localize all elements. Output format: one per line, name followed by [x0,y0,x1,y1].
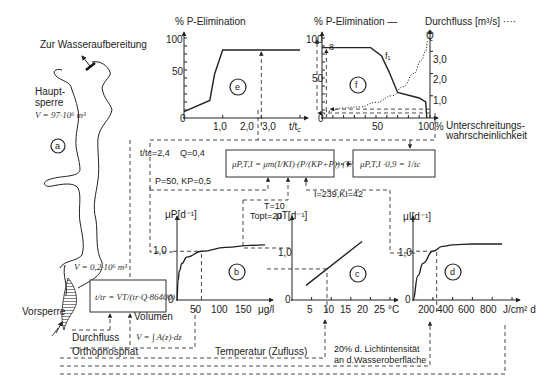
chart-e: % P-Elimination 100 50 0 1,0 2,0 3,0 t/t… [166,16,308,133]
chart-b: μP[d⁻¹] 1,0 0 50 100 150 μg/l b [153,209,274,315]
param-i: I=239,KI=42 [314,189,363,199]
result-formula: μP,T,I ·0,9 = 1/tc [359,159,421,169]
chart-d-ytick-1: 1,0 [398,247,412,258]
chart-b-ytick-1: 1,0 [153,245,167,256]
marker-f-circle [350,77,366,93]
chart-b-ytick-0: 0 [168,294,174,305]
input-orthophosphate: Orthophosphat [72,346,138,357]
chart-c-ytick-0: 0 [285,294,291,305]
marker-b: b [234,267,239,277]
chart-c-xtick-20: 20 [357,304,369,315]
input-volume: Volumen [134,311,173,322]
chart-f-xlabel-2: wahrscheinlichkeit [445,130,527,141]
chart-c: μT[d⁻¹] 1,0 0 5 10 15 20 25 °C c [267,210,399,315]
chart-b-xunit: μg/l [258,304,274,315]
pre-dam-basin [62,278,77,330]
main-dam-label-2: sperre [35,97,64,108]
outlet-label: Zur Wasseraufbereitung [40,39,147,50]
chart-f-ytick-100: 100 [306,34,323,45]
inflow-arrow [56,322,62,333]
chart-c-xtick-25: 25 [374,304,386,315]
marker-a: a [55,141,60,151]
chart-e-xtick-3: 3,0 [262,121,276,132]
main-volume: V = 97·10⁶ m³ [35,110,86,120]
input-light-1: 20% d. Lichtintensität [334,344,420,354]
marker-c: c [355,269,360,279]
chart-d-xtick-200: 200 [418,304,435,315]
marker-e: e [235,82,240,92]
chart-b-xtick-150: 150 [235,304,252,315]
chart-e-xlabel: t/tc [289,121,301,133]
chart-f-xtick-100: 100% [418,121,444,132]
chart-e-ytick-50: 50 [172,66,184,77]
chart-c-xunit: °C [388,304,399,315]
input-flow: Durchfluss [72,332,119,343]
chart-e-ytick-100: 100 [166,34,183,45]
chart-f-series-elimination [322,48,427,118]
chart-b-xtick-100: 100 [211,304,228,315]
param-p: P=50, KP=0,5 [155,176,211,186]
outlet-bar [86,63,95,70]
chart-f: % P-Elimination — Durchfluss [m³/s] ····… [306,16,527,141]
result-formula-box: μP,T,I ·0,9 = 1/tc [353,150,435,177]
residence-formula-box: t/tr = VT/(tr·Q·86400) [90,280,175,312]
chart-d: μI[d⁻¹] 1,0 0 200 400 600 800 J/cm² d d [398,211,536,315]
main-dam-label-1: Haupt- [35,86,65,97]
chart-f-curve-label: f₁ [385,51,391,61]
input-temperature: Temperatur (Zufluss) [215,346,307,357]
chart-f-ytick-50: 50 [312,73,324,84]
chart-f-ytick-0: 0 [318,113,324,124]
growth-formula-box: μP,T,I = μm(I/KI)·(P/(KP+P))·(T/Topt) [226,150,372,177]
chart-f-xtick-50: 50 [372,121,384,132]
chart-c-ytick-1: 1,0 [278,247,292,258]
chart-e-title: % P-Elimination [175,16,246,27]
volume-formula: V = ∫ A(z)·dz [136,332,182,343]
chart-c-xtick-10: 10 [323,304,335,315]
phosphorus-elimination-diagram: Zur Wasseraufbereitung Haupt- sperre V =… [0,0,551,386]
chart-f-title2: Durchfluss [m³/s] ···· [425,16,516,27]
param-ttc: t/tc=2,4 [140,148,170,158]
chart-d-ytick-0: 0 [405,294,411,305]
chart-f-y2tick-2: 2,0 [433,74,447,85]
growth-formula: μP,T,I = μm(I/KI)·(P/(KP+P))·(T/Topt) [231,159,372,169]
chart-c-xtick-15: 15 [340,304,352,315]
param-q: Q=0,4 [180,148,205,158]
input-light-2: an d.Wasseroberfläche [334,355,426,365]
pre-dam-label: Vorsperre [22,306,66,317]
chart-f-annotation: 8 [329,42,334,52]
outlet-arrow [82,56,90,66]
chart-b-series-line [177,245,265,300]
chart-c-xtick-5: 5 [307,304,313,315]
marker-d: d [450,267,455,277]
chart-d-xtick-600: 600 [458,304,475,315]
chart-d-ylabel: μI[d⁻¹] [403,211,431,222]
chart-b-xtick-50: 50 [190,304,202,315]
pre-volume: V = 0,2·10⁶ m³ [74,262,127,272]
chart-d-xtick-400: 400 [437,304,454,315]
chart-d-xtick-800: 800 [480,304,497,315]
chart-f-y2tick-3: 3,0 [433,54,447,65]
chart-e-xtick-2: 2,0 [240,121,254,132]
residence-formula: t/tr = VT/(tr·Q·86400) [95,292,175,302]
chart-d-xunit: J/cm² d [503,304,536,315]
chart-f-title: % P-Elimination — [314,16,397,27]
chart-e-xtick-1: 1,0 [213,121,227,132]
chart-e-ytick-0: 0 [180,113,186,124]
chart-b-ylabel: μP[d⁻¹] [165,209,197,220]
chart-f-y2tick-1: 1,0 [433,95,447,106]
